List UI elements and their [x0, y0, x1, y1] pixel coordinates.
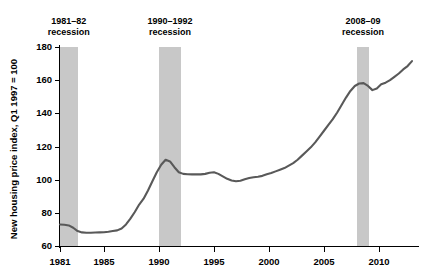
x-tick-label: 2005: [304, 256, 344, 267]
recession-band: [60, 47, 78, 246]
y-tick-mark: [55, 80, 60, 81]
x-tick-label: 1995: [194, 256, 234, 267]
x-tick-mark: [379, 247, 380, 252]
x-tick-mark: [60, 247, 61, 252]
x-tick-mark: [104, 247, 105, 252]
y-tick-label: 60: [24, 241, 52, 251]
y-tick-label: 140: [24, 108, 52, 118]
x-tick-label: 2010: [359, 256, 399, 267]
x-tick-label: 1990: [139, 256, 179, 267]
y-tick-mark: [55, 213, 60, 214]
recession-label: 1990–1992recession: [110, 16, 230, 38]
y-tick-mark: [55, 180, 60, 181]
housing-price-index-chart: New housing price index, Q1 1997 = 100 1…: [0, 0, 423, 279]
x-axis-line: [59, 246, 419, 247]
x-tick-mark: [214, 247, 215, 252]
x-tick-mark: [269, 247, 270, 252]
x-tick-label: 1985: [84, 256, 124, 267]
y-tick-label: 120: [24, 142, 52, 152]
y-tick-mark: [55, 147, 60, 148]
x-tick-label: 1981: [40, 256, 80, 267]
recession-band: [357, 47, 369, 246]
y-tick-label: 180: [24, 42, 52, 52]
recession-label: 2008–09recession: [303, 16, 423, 38]
recession-label-years: 1990–1992: [110, 16, 230, 27]
y-tick-label: 80: [24, 208, 52, 218]
recession-label-text: recession: [110, 27, 230, 38]
x-tick-mark: [324, 247, 325, 252]
recession-label-text: recession: [303, 27, 423, 38]
recession-label-years: 2008–09: [303, 16, 423, 27]
y-axis-title: New housing price index, Q1 1997 = 100: [7, 29, 21, 269]
y-tick-label: 100: [24, 175, 52, 185]
x-tick-label: 2000: [249, 256, 289, 267]
x-tick-mark: [159, 247, 160, 252]
y-tick-mark: [55, 113, 60, 114]
y-tick-label: 160: [24, 75, 52, 85]
y-tick-mark: [55, 47, 60, 48]
recession-band: [159, 47, 181, 246]
